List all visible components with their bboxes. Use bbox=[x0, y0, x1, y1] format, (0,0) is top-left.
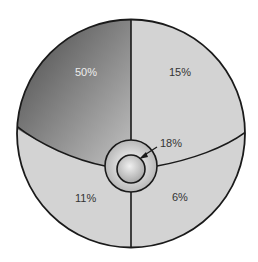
label-lower-right: 6% bbox=[172, 191, 188, 203]
label-lower-left: 11% bbox=[75, 192, 96, 204]
label-upper-right: 15% bbox=[169, 66, 191, 78]
label-core: 18% bbox=[160, 137, 182, 149]
label-upper-left: 50% bbox=[75, 66, 97, 78]
core-inner bbox=[117, 155, 145, 183]
sphere-diagram: 50% 15% 11% 6% 18% bbox=[0, 0, 258, 262]
